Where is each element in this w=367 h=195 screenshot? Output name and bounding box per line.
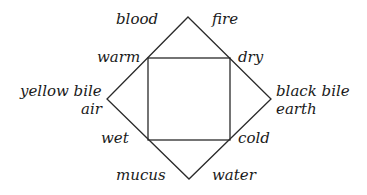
label-air: air [81,102,102,117]
label-blood: blood [116,12,158,27]
label-dry: dry [238,50,263,65]
label-yellow-bile: yellow bile [20,84,102,99]
label-earth: earth [276,102,317,117]
label-water: water [212,168,256,183]
label-black-bile: black bile [276,84,350,99]
outer-diamond [107,17,271,179]
label-cold: cold [238,131,270,146]
label-mucus: mucus [116,168,166,183]
inner-square [148,58,230,140]
label-wet: wet [101,131,129,146]
label-warm: warm [97,50,140,65]
label-fire: fire [212,12,238,27]
humours-diagram: blood fire warm dry yellow bile air blac… [0,0,367,195]
